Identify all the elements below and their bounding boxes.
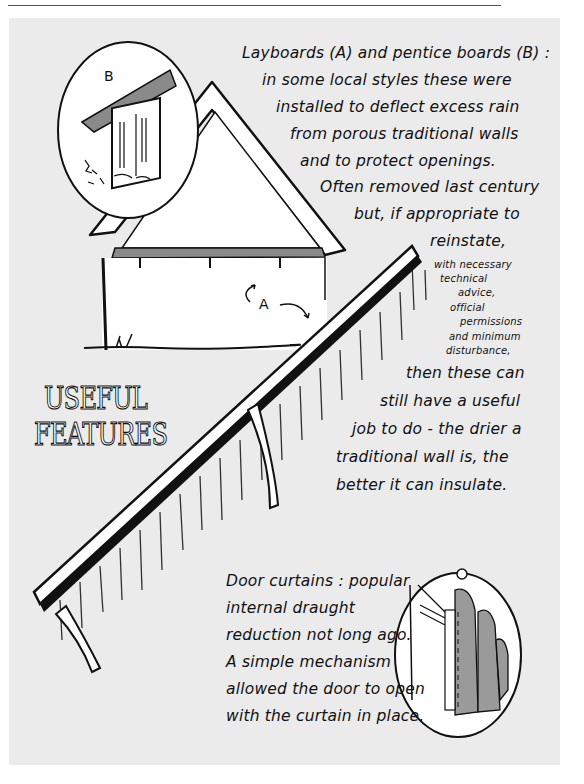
layboards-note-small-line: disturbance,	[446, 344, 511, 357]
layboards-note-line: installed to deflect excess rain	[276, 94, 520, 120]
door-curtains-note-line: allowed the door to open	[226, 676, 425, 702]
layboards-note-small-line: advice,	[458, 286, 495, 299]
layboards-note-small-line: with necessary	[434, 258, 512, 271]
layboards-note-small-line: permissions	[460, 315, 522, 328]
title-line-2: FEATURES	[34, 416, 167, 452]
door-curtains-note-line: internal draught	[226, 595, 355, 621]
layboards-note-small-line: and minimum	[449, 330, 521, 343]
layboards-note-closing-line: then these can	[406, 360, 525, 386]
door-curtains-note-line: reduction not long ago.	[226, 622, 412, 648]
layboards-note-line: but, if appropriate to	[354, 201, 520, 227]
layboards-note-line: Layboards (A) and pentice boards (B) :	[242, 40, 550, 66]
label-b: B	[104, 68, 114, 84]
layboards-note-line: and to protect openings.	[300, 148, 496, 174]
layboards-note-closing-line: traditional wall is, the	[336, 444, 509, 470]
layboards-note-line: Often removed last century	[320, 174, 539, 200]
label-a: A	[259, 296, 269, 312]
layboards-note-small-line: technical	[440, 272, 487, 285]
title-line-1: USEFUL	[44, 380, 147, 416]
door-curtains-note-line: Door curtains : popular	[226, 568, 410, 594]
door-curtains-note-line: A simple mechanism	[226, 649, 391, 675]
layboards-note-line: from porous traditional walls	[290, 121, 519, 147]
layboards-note-small-line: official	[450, 301, 485, 314]
layboards-note-closing-line: job to do - the drier a	[352, 416, 522, 442]
layboards-note-line: reinstate,	[430, 228, 506, 254]
layboards-note-closing-line: still have a useful	[380, 388, 520, 414]
door-curtains-note-line: with the curtain in place.	[226, 703, 424, 729]
layboards-note-closing-line: better it can insulate.	[336, 472, 507, 498]
window-inset-illustration	[58, 42, 198, 218]
layboards-note-line: in some local styles these were	[262, 67, 512, 93]
